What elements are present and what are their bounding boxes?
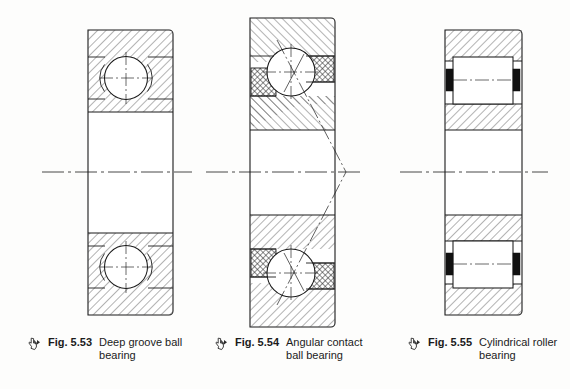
bearing3-outer-ring-bottom: [445, 284, 522, 315]
figure-cylindrical-roller-bearing: [400, 30, 548, 315]
pointer-hand-icon: [215, 337, 228, 351]
caption-fig-5-53: Fig. 5.53 Deep groove ball bearing: [28, 336, 187, 362]
bearing-figures-area: [0, 0, 570, 330]
figure-angular-contact-ball-bearing: [206, 18, 360, 327]
pointer-hand-icon: [408, 337, 421, 351]
bearing3-flange-bar-left-bottom: [446, 253, 453, 275]
caption-fig-title: Angular contact ball bearing: [286, 336, 374, 362]
bearing2-inner-ring-bottom-body: [250, 215, 335, 249]
caption-fig-5-55: Fig. 5.55 Cylindrical roller bearing: [408, 336, 567, 362]
caption-fig-5-54: Fig. 5.54 Angular contact ball bearing: [215, 336, 374, 362]
caption-fig-number: Fig. 5.53: [48, 336, 92, 349]
bearing3-flange-bar-left-top: [446, 69, 453, 91]
pointer-hand-icon: [28, 337, 41, 351]
caption-fig-title: Deep groove ball bearing: [99, 336, 187, 362]
bearing3-outer-ring-top: [445, 30, 522, 61]
caption-fig-title: Cylindrical roller bearing: [479, 336, 567, 362]
figure-deep-groove-ball-bearing: [42, 30, 192, 315]
bearing3-roller-bottom: [453, 241, 513, 288]
caption-fig-number: Fig. 5.55: [428, 336, 472, 349]
bearing3-roller-top: [453, 57, 513, 104]
bearing3-inner-ring-top: [445, 104, 522, 130]
caption-fig-number: Fig. 5.54: [235, 336, 279, 349]
bearing3-flange-bar-right-bottom: [513, 253, 520, 275]
bearing3-inner-ring-bottom: [445, 215, 522, 241]
captions-area: Fig. 5.53 Deep groove ball bearing Fig. …: [0, 330, 570, 389]
bearing3-flange-bar-right-top: [513, 69, 520, 91]
bearing-drawings-svg: [0, 0, 570, 330]
bearing2-inner-ring-top-body: [250, 96, 335, 130]
